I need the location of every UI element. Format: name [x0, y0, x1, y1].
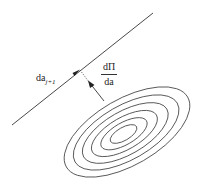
- line-label-subscript: j+1: [45, 78, 55, 86]
- diagram-canvas: [0, 0, 199, 188]
- gradient-numerator: dΠ: [101, 62, 117, 72]
- contour-6: [107, 121, 139, 147]
- gradient-denominator: da: [101, 77, 117, 87]
- search-direction-line: [12, 13, 153, 125]
- fraction-bar: [101, 74, 117, 75]
- gradient-label: dΠ da: [101, 62, 117, 87]
- contour-ellipses: [50, 68, 199, 188]
- arrowhead-on-line: [73, 70, 81, 77]
- gradient-arrowhead: [88, 81, 95, 89]
- line-label: daj+1: [36, 73, 56, 83]
- contour-4: [84, 101, 164, 166]
- contour-5: [96, 111, 152, 156]
- contour-1: [50, 68, 199, 188]
